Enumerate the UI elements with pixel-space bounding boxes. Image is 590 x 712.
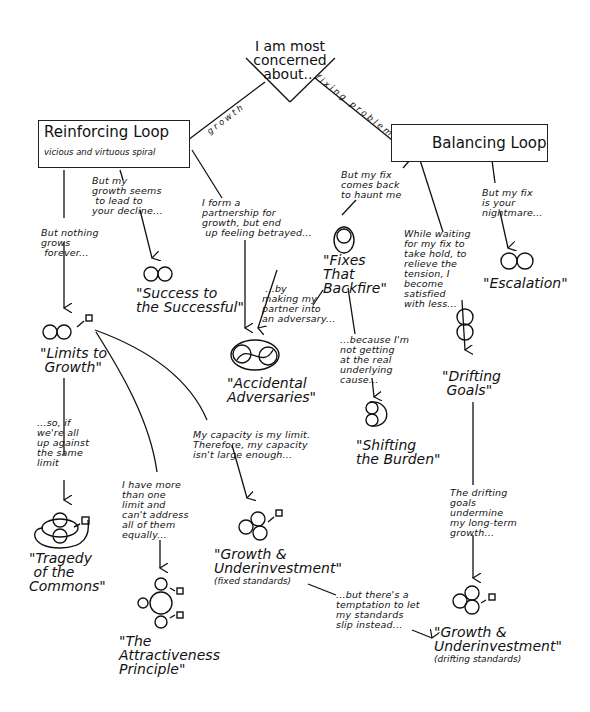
root-question: I am most concerned about...: [240, 39, 340, 81]
archetype-fixes-that-backfire: "Fixes That Backfire": [323, 253, 387, 295]
tragedy-loop-icon: [35, 513, 89, 548]
archetype-limits-to-growth: "Limits to Growth": [40, 346, 107, 374]
archetype-drifting-goals: "Drifting Goals": [442, 369, 501, 397]
note-not-getting: ...because I'm not getting at the real u…: [340, 335, 409, 385]
balancing-loop-box: Balancing Loop: [391, 124, 548, 162]
archetype-escalation: "Escalation": [483, 276, 568, 290]
reinforcing-loop-box: Reinforcing Loop vicious and virtuous sp…: [38, 120, 190, 168]
drifting-loop-icon: [457, 309, 473, 340]
note-fix-haunt: But my fix comes back to haunt me: [341, 170, 402, 200]
growth-underinvestment-fixed-loop-icon: [239, 510, 282, 540]
escalation-loop-icon: [501, 253, 533, 269]
archetype-accidental-adversaries: "Accidental Adversaries": [227, 376, 316, 404]
note-more-than-one: I have more than one limit and can't add…: [122, 480, 189, 540]
note-capacity: My capacity is my limit. Therefore, my c…: [193, 430, 310, 460]
archetype-tragedy-of-the-commons: "Tragedy of the Commons": [29, 551, 106, 593]
growth-underinvestment-fixed-title: "Growth & Underinvestment": [214, 547, 342, 575]
shifting-loop-icon: [366, 402, 387, 426]
note-growth-decline: But my growth seems to lead to your decl…: [92, 176, 163, 216]
archetype-growth-underinvestment-fixed: "Growth & Underinvestment" (fixed standa…: [214, 547, 342, 586]
note-partnership: I form a partnership for growth, but end…: [202, 198, 312, 238]
growth-underinvestment-drifting-title: "Growth & Underinvestment": [434, 625, 562, 653]
note-nothing-grows: But nothing grows forever...: [41, 228, 99, 258]
fixes-loop-icon: [334, 227, 354, 253]
growth-underinvestment-drifting-loop-icon: [453, 586, 495, 614]
growth-underinvestment-fixed-sub: (fixed standards): [214, 576, 342, 586]
archetype-growth-underinvestment-drifting: "Growth & Underinvestment" (drifting sta…: [434, 625, 562, 664]
limits-loop-icon: [43, 315, 92, 339]
attractiveness-loop-icon: [138, 578, 183, 628]
adversaries-loop-icon: [231, 340, 279, 370]
note-while-waiting: While waiting for my fix to take hold, t…: [404, 229, 471, 309]
growth-underinvestment-drifting-sub: (drifting standards): [434, 654, 562, 664]
reinforcing-loop-title: Reinforcing Loop: [44, 124, 169, 140]
note-so-if: ...so, if we're all up against the same …: [37, 418, 89, 468]
note-drifting-undermine: The drifting goals undermine my long-ter…: [450, 488, 517, 538]
success-loop-icon: [144, 267, 172, 281]
note-temptation: ...but there's a temptation to let my st…: [336, 590, 420, 630]
archetype-shifting-the-burden: "Shifting the Burden": [356, 438, 440, 466]
note-fix-nightmare: But my fix is your nightmare...: [482, 188, 543, 218]
archetype-success-to-the-successful: "Success to the Successful": [136, 286, 244, 314]
balancing-loop-title: Balancing Loop: [432, 135, 547, 151]
reinforcing-loop-subtitle: vicious and virtuous spiral: [44, 147, 155, 157]
archetype-attractiveness-principle: "The Attractiveness Principle": [119, 634, 220, 676]
